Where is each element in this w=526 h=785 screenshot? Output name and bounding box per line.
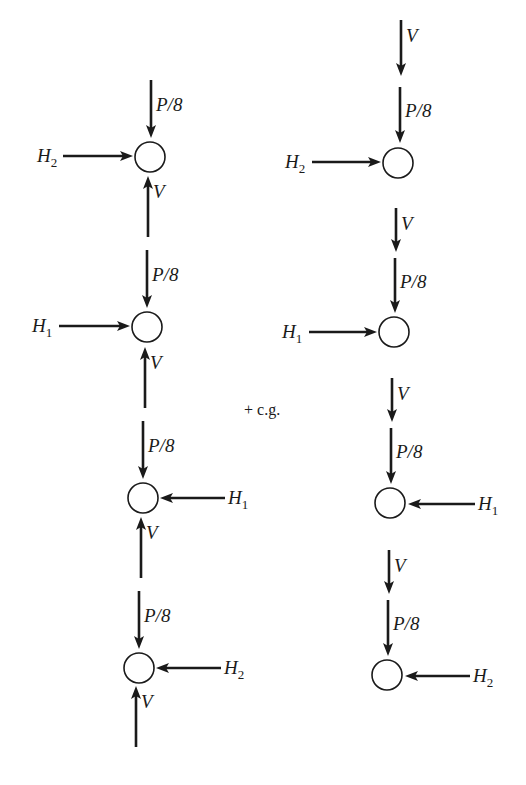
force-label: V (153, 181, 167, 202)
vertical-force-p-over-8: P/8 (395, 87, 432, 143)
force-label: P/8 (155, 94, 183, 115)
force-label: H1 (477, 493, 498, 518)
particle-node (132, 312, 162, 342)
force-label: V (406, 25, 420, 46)
force-label: V (397, 383, 411, 404)
vertical-force-p-over-8: P/8 (142, 250, 179, 308)
particle-node (379, 317, 409, 347)
vertical-force-p-over-8: P/8 (386, 428, 423, 484)
vertical-force-v: V (136, 517, 160, 578)
vertical-force-p-over-8: P/8 (146, 80, 183, 138)
force-label: P/8 (147, 435, 175, 456)
force-label: H2 (36, 145, 57, 170)
vertical-force-v: V (143, 176, 167, 237)
horizontal-force-h1: H1 (408, 493, 498, 518)
vertical-force-v: V (396, 20, 420, 76)
vertical-force-p-over-8: P/8 (134, 591, 171, 649)
right-column: VP/8VP/8VP/8VP/8H2H1H1H2 (281, 20, 498, 690)
vertical-force-p-over-8: P/8 (138, 421, 175, 479)
horizontal-force-h1: H1 (281, 321, 377, 346)
vertical-force-v: V (391, 208, 415, 252)
particle-node (375, 488, 405, 518)
particle-node (124, 653, 154, 683)
force-label: H2 (284, 151, 305, 176)
horizontal-force-h2: H2 (284, 151, 381, 176)
force-label: H2 (472, 665, 493, 690)
force-label: H1 (227, 487, 248, 512)
vertical-force-v: V (131, 686, 155, 747)
free-body-diagram: P/8VP/8VP/8VP/8VH2H1H1H2 VP/8VP/8VP/8VP/… (0, 0, 526, 785)
vertical-force-v: V (384, 550, 408, 594)
force-label: H1 (31, 315, 52, 340)
vertical-force-v: V (387, 378, 411, 422)
force-label: V (401, 213, 415, 234)
vertical-force-p-over-8: P/8 (383, 600, 420, 656)
force-label: V (146, 522, 160, 543)
vertical-force-v: V (140, 347, 164, 408)
force-label: V (150, 352, 164, 373)
vertical-force-p-over-8: P/8 (390, 258, 427, 313)
horizontal-force-h1: H1 (31, 315, 130, 340)
force-label: H1 (281, 321, 302, 346)
left-column: P/8VP/8VP/8VP/8VH2H1H1H2 (31, 80, 248, 747)
horizontal-force-h2: H2 (405, 665, 493, 690)
force-label: P/8 (404, 100, 432, 121)
particle-node (128, 483, 158, 513)
horizontal-force-h2: H2 (36, 145, 133, 170)
horizontal-force-h1: H1 (160, 487, 248, 512)
center-of-gravity-label: + c.g. (244, 401, 280, 419)
particle-node (372, 660, 402, 690)
particle-node (383, 148, 413, 178)
force-label: V (141, 691, 155, 712)
particle-node (135, 142, 165, 172)
horizontal-force-h2: H2 (156, 657, 244, 682)
force-label: V (394, 555, 408, 576)
force-label: P/8 (392, 613, 420, 634)
force-label: P/8 (399, 271, 427, 292)
force-label: P/8 (143, 605, 171, 626)
force-label: P/8 (151, 264, 179, 285)
force-label: P/8 (395, 441, 423, 462)
force-label: H2 (223, 657, 244, 682)
